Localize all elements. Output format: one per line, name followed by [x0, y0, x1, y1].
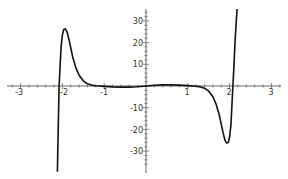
chart-plot: -3 -2 -1 1 2 3 30 20 10 -10 -20 -30: [0, 0, 288, 179]
y-tick-label: -10: [130, 104, 143, 113]
x-tick-label: 2: [226, 88, 231, 97]
x-tick-label: -3: [15, 88, 23, 97]
y-tick-label: -20: [130, 126, 143, 135]
x-tick-label: 3: [268, 88, 273, 97]
x-tick-label: 1: [184, 88, 189, 97]
y-tick-label: 10: [133, 60, 143, 69]
y-tick-label: 20: [133, 39, 143, 48]
x-tick-label: -1: [100, 88, 108, 97]
y-axis: [143, 9, 149, 173]
x-tick-label: -2: [60, 88, 68, 97]
y-tick-label: -30: [130, 147, 143, 156]
y-tick-label: 30: [133, 17, 143, 26]
x-tick-labels: -3 -2 -1 1 2 3: [15, 88, 274, 97]
